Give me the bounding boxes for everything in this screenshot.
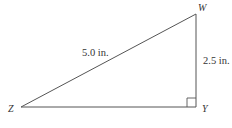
side-label-zw: 5.0 in. bbox=[82, 47, 109, 58]
vertex-label-w: W bbox=[198, 2, 208, 13]
side-zw bbox=[21, 14, 196, 107]
vertex-label-z: Z bbox=[8, 103, 14, 114]
right-angle-marker bbox=[187, 98, 196, 107]
triangle-diagram: W Y Z 5.0 in. 2.5 in. bbox=[0, 0, 232, 128]
vertex-label-y: Y bbox=[202, 103, 209, 114]
side-label-wy: 2.5 in. bbox=[203, 55, 230, 66]
triangle-svg: W Y Z 5.0 in. 2.5 in. bbox=[0, 0, 232, 128]
